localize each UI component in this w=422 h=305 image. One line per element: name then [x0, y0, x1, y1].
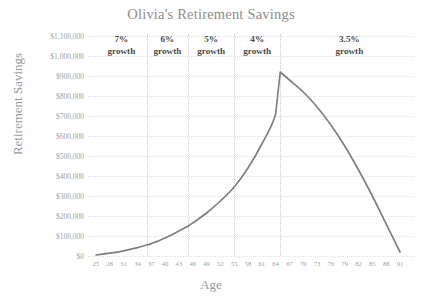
- retirement-savings-chart: Olivia's Retirement Savings Retirement S…: [0, 0, 422, 305]
- savings-curve: [0, 0, 422, 305]
